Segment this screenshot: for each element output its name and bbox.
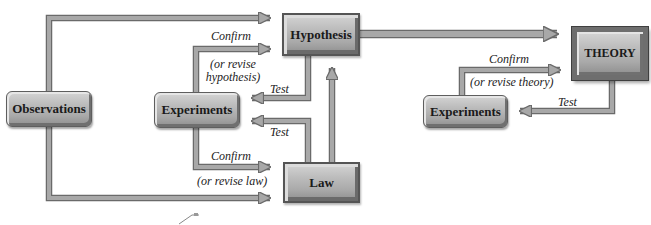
node-observations: Observations [6, 91, 92, 127]
node-theory-label: THEORY [584, 46, 636, 61]
label-test-hypothesis: Test [270, 83, 289, 96]
label-test-law: Test [270, 126, 289, 139]
label-confirm-hypothesis: Confirm [211, 30, 251, 43]
node-experiments-left-label: Experiments [162, 102, 233, 118]
node-observations-label: Observations [12, 101, 86, 117]
label-confirm-theory: Confirm [489, 53, 529, 66]
node-hypothesis: Hypothesis [282, 13, 360, 56]
label-revise-theory: (or revise theory) [470, 76, 554, 89]
node-hypothesis-label: Hypothesis [290, 27, 351, 43]
node-experiments-left: Experiments [154, 92, 240, 128]
node-law: Law [283, 162, 360, 203]
node-theory: THEORY [572, 27, 648, 80]
scientific-method-diagram: Observations Experiments Hypothesis Law … [0, 0, 651, 225]
label-revise-hypothesis: (or revise hypothesis) [203, 58, 263, 84]
node-experiments-right: Experiments [423, 95, 508, 128]
label-confirm-law: Confirm [211, 150, 251, 163]
label-revise-law: (or revise law) [197, 175, 267, 188]
caption-pencil-icon [178, 212, 200, 225]
label-test-theory: Test [558, 96, 577, 109]
label-revise-hypothesis-line2: hypothesis) [203, 71, 263, 84]
node-experiments-right-label: Experiments [430, 104, 501, 120]
node-law-label: Law [309, 175, 334, 191]
